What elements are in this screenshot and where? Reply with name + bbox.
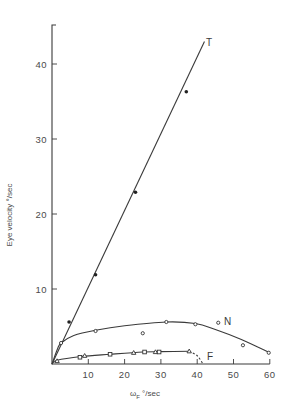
series-label-f: F (207, 351, 213, 362)
point-n (94, 329, 97, 332)
x-tick-label: 50 (228, 369, 240, 380)
point-f-square (78, 355, 82, 359)
y-axis-ticks: 10203040 (35, 59, 57, 295)
point-n (217, 321, 220, 324)
y-tick-label: 40 (35, 59, 47, 70)
point-n (267, 351, 270, 354)
point-n (59, 341, 62, 344)
curve-t (52, 42, 204, 365)
x-tick-label: 40 (191, 369, 203, 380)
point-n (241, 344, 244, 347)
point-t (94, 273, 98, 277)
curve-f (52, 351, 189, 364)
y-tick-label: 30 (35, 134, 47, 145)
x-axis-label: ωF°/sec (130, 389, 160, 400)
series-label-t: T (206, 37, 212, 48)
point-t (67, 320, 71, 324)
point-f-square (157, 350, 161, 354)
y-axis-label: Eye velocity °/sec (5, 184, 14, 247)
axis-lines (52, 25, 270, 364)
x-axis-label-unit: °/sec (142, 389, 160, 398)
point-f-square (143, 350, 147, 354)
point-t (134, 190, 138, 194)
point-t (185, 90, 189, 94)
series-labels: TNF (206, 37, 231, 362)
x-tick-label: 20 (119, 369, 131, 380)
point-n (141, 332, 144, 335)
x-axis-label-sub: F (136, 394, 140, 400)
chart: 102030405060 10203040 TNF Eye velocity °… (0, 0, 292, 410)
x-tick-label: 60 (264, 369, 276, 380)
point-n (165, 320, 168, 323)
point-f-square (108, 352, 112, 356)
y-tick-label: 10 (35, 284, 47, 295)
series-curves (52, 42, 270, 365)
x-tick-label: 10 (83, 369, 95, 380)
x-tick-label: 30 (155, 369, 167, 380)
point-n (194, 323, 197, 326)
series-label-n: N (224, 316, 231, 327)
point-f-triangle (187, 349, 191, 353)
point-f-triangle (82, 354, 86, 358)
y-tick-label: 20 (35, 209, 47, 220)
axes (52, 25, 270, 364)
x-axis-ticks: 102030405060 (83, 359, 276, 380)
point-f-triangle (131, 351, 135, 355)
